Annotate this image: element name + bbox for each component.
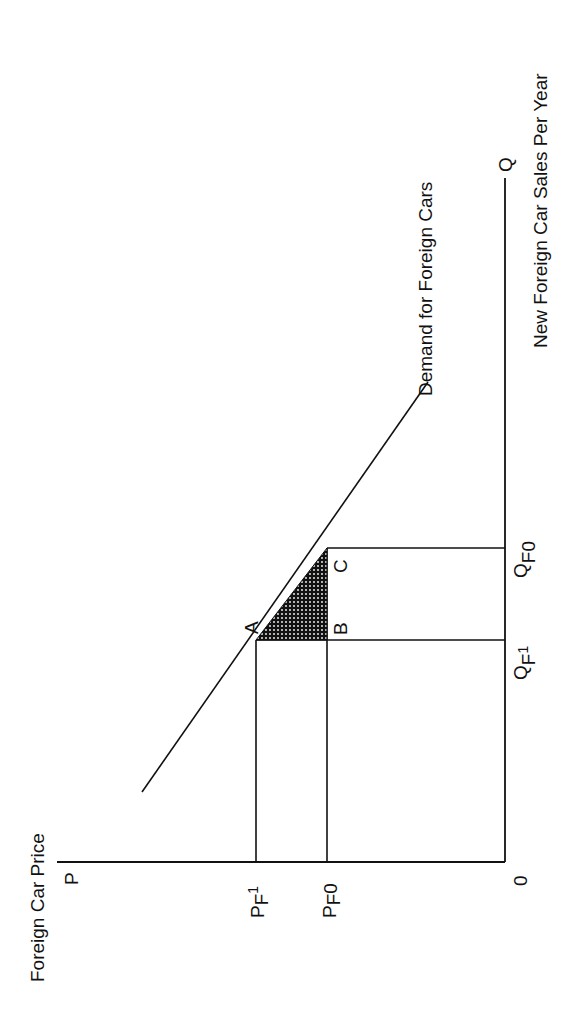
origin-label: 0 — [510, 875, 531, 886]
svg-text:PF0: PF0 — [319, 883, 344, 918]
shaded-triangle-abc — [256, 548, 327, 640]
x-axis-title: New Foreign Car Sales Per Year — [530, 73, 551, 348]
pf1-label: PF1 — [245, 886, 272, 918]
qf0-label: QF0 — [510, 541, 539, 578]
svg-text:QF1: QF1 — [510, 646, 539, 680]
point-b-label: B — [330, 622, 351, 635]
y-axis-symbol: P — [61, 872, 82, 885]
x-axis-symbol: Q — [495, 157, 516, 172]
point-c-label: C — [330, 559, 351, 573]
pf0-label: PF0 — [319, 883, 344, 918]
svg-text:QF0: QF0 — [510, 541, 539, 578]
demand-curve — [142, 382, 428, 792]
y-axis-title: Foreign Car Price — [27, 833, 48, 982]
qf1-label: QF1 — [510, 646, 539, 680]
point-a-label: A — [241, 621, 262, 634]
demand-diagram: Foreign Car Price P Q New Foreign Car Sa… — [0, 0, 586, 1012]
svg-text:PF1: PF1 — [245, 886, 272, 918]
demand-curve-label: Demand for Foreign Cars — [415, 182, 436, 396]
